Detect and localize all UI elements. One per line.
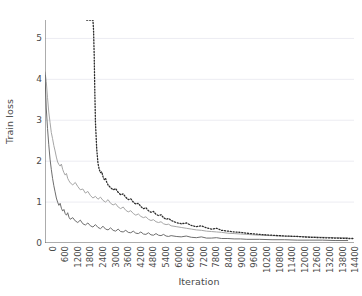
y-tick-label: 2: [24, 157, 42, 166]
y-axis-label: Train loss: [2, 0, 18, 243]
y-tick-label: 5: [24, 34, 42, 43]
x-tick-label: 10800: [276, 246, 285, 273]
y-tick-label: 1: [24, 198, 42, 207]
x-tick-label: 12000: [301, 246, 310, 273]
x-tick-label: 5400: [162, 246, 171, 268]
y-tick-label: 3: [24, 116, 42, 125]
x-tick-label: 4800: [149, 246, 158, 268]
x-tick-label: 13200: [326, 246, 335, 273]
x-tick-label: 3600: [124, 246, 133, 268]
x-tick-label: 13800: [339, 246, 348, 273]
x-axis-label-text: Iteration: [178, 276, 219, 287]
x-axis-label: Iteration: [44, 276, 354, 287]
x-tick-label: 1800: [86, 246, 95, 268]
y-tick-label: 0: [24, 239, 42, 248]
x-tick-label: 7800: [212, 246, 221, 268]
x-tick-label: 8400: [225, 246, 234, 268]
x-tick-label: 0: [49, 246, 58, 251]
x-tick-label: 6000: [175, 246, 184, 268]
y-tick-label: 4: [24, 75, 42, 84]
train-loss-chart-figure: Train loss 012345 0600120018002400300036…: [0, 0, 362, 296]
plot-svg: [45, 20, 354, 243]
x-tick-label: 1200: [74, 246, 83, 268]
x-tick-label: 9000: [238, 246, 247, 268]
x-tick-label: 2400: [99, 246, 108, 268]
x-tick-label: 12600: [313, 246, 322, 273]
x-tick-label: 14400: [351, 246, 360, 273]
x-tick-label: 6600: [187, 246, 196, 268]
x-tick-label: 11400: [288, 246, 297, 273]
x-tick-label: 3000: [112, 246, 121, 268]
x-tick-label: 10200: [263, 246, 272, 273]
x-tick-label: 4200: [137, 246, 146, 268]
y-axis-label-text: Train loss: [5, 99, 16, 144]
y-axis-tick-labels: 012345: [20, 0, 42, 296]
plot-area: [45, 20, 354, 243]
x-tick-label: 600: [61, 246, 70, 262]
x-tick-label: 9600: [250, 246, 259, 268]
x-tick-label: 7200: [200, 246, 209, 268]
